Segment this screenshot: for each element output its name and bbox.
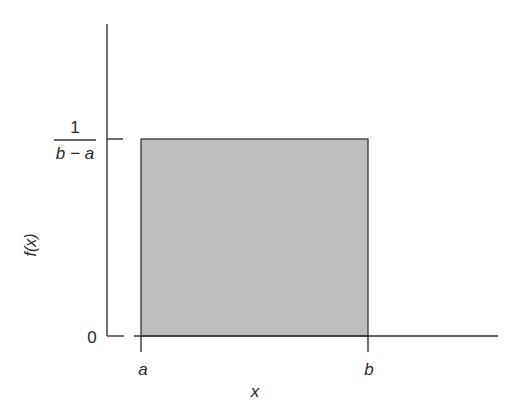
density-region [141,139,368,336]
y-top-numerator: 1 [70,118,79,137]
x-axis-title: x [250,382,260,401]
y-top-denominator: b − a [56,144,94,163]
y-axis-title: f(x) [22,233,39,256]
x-tick-label-b: b [364,360,373,379]
y-zero-label: 0 [87,328,96,347]
uniform-distribution-diagram: 0 1 b − a f(x) a b x [0,0,519,410]
x-tick-label-a: a [138,360,147,379]
